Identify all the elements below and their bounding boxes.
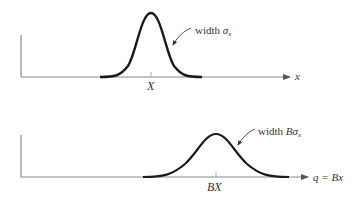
bottom-gaussian-curve bbox=[143, 134, 289, 177]
top-center-label: X bbox=[146, 79, 155, 93]
bottom-center-label: BX bbox=[207, 180, 222, 194]
bottom-axis-label: q = Bx bbox=[313, 171, 343, 183]
top-panel: width σx X x bbox=[21, 13, 300, 93]
top-width-label: width σx bbox=[195, 24, 232, 38]
bottom-width-label: width Bσx bbox=[258, 125, 302, 139]
top-gaussian-curve bbox=[100, 13, 202, 77]
bottom-panel: width Bσx BX q = Bx bbox=[21, 125, 343, 194]
top-axis-label: x bbox=[294, 70, 300, 82]
diagram-canvas: width σx X x width Bσx BX q = Bx bbox=[0, 0, 361, 204]
top-width-pointer-arrow bbox=[173, 28, 191, 45]
bottom-width-pointer-arrow bbox=[238, 129, 255, 145]
